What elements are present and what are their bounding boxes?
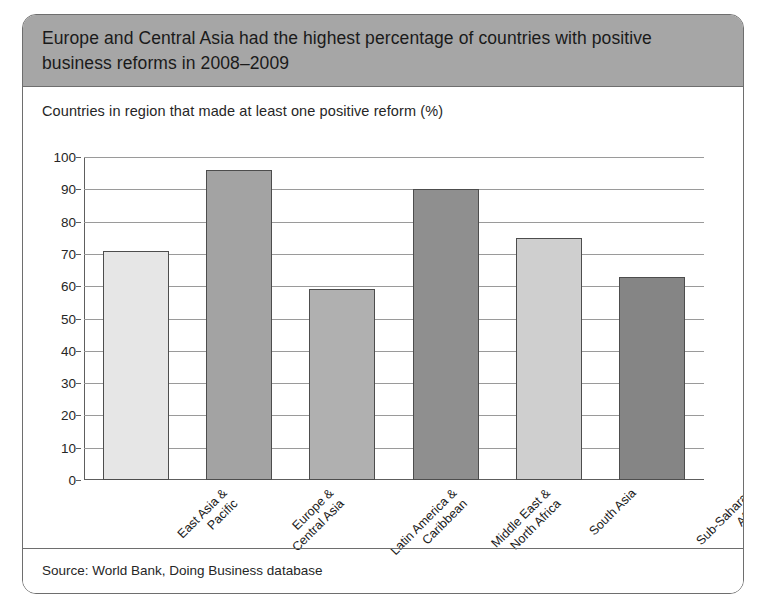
x-label-line: South Asia <box>587 486 640 539</box>
x-label-2: Europe &Central Asia <box>279 486 348 555</box>
figure-card: Europe and Central Asia had the highest … <box>22 14 744 594</box>
gridline-20 <box>84 415 704 416</box>
bar-chart-plot-area: 0102030405060708090100 <box>84 157 704 480</box>
gridline-50 <box>84 319 704 320</box>
bar-3 <box>309 289 375 480</box>
x-label-5: South Asia <box>587 486 640 539</box>
source-note: Source: World Bank, Doing Business datab… <box>42 563 322 578</box>
figure-header-band: Europe and Central Asia had the highest … <box>23 15 743 87</box>
gridline-10 <box>84 448 704 449</box>
y-tick-mark-50 <box>76 319 81 320</box>
gridline-30 <box>84 383 704 384</box>
y-tick-label-20: 20 <box>30 408 76 423</box>
y-tick-label-50: 50 <box>30 311 76 326</box>
y-tick-mark-40 <box>76 351 81 352</box>
y-tick-label-90: 90 <box>30 182 76 197</box>
y-tick-mark-60 <box>76 286 81 287</box>
bar-2 <box>206 170 272 480</box>
gridline-60 <box>84 286 704 287</box>
x-label-3: Latin America &Caribbean <box>388 486 471 569</box>
y-tick-label-70: 70 <box>30 246 76 261</box>
figure-container: Europe and Central Asia had the highest … <box>0 0 764 611</box>
gridline-70 <box>84 254 704 255</box>
y-tick-label-60: 60 <box>30 279 76 294</box>
bar-4 <box>413 189 479 480</box>
y-tick-label-80: 80 <box>30 214 76 229</box>
figure-title: Europe and Central Asia had the highest … <box>42 26 723 76</box>
y-tick-label-30: 30 <box>30 376 76 391</box>
bar-6 <box>619 277 685 480</box>
gridline-100 <box>84 157 704 158</box>
source-divider <box>23 548 743 549</box>
y-tick-mark-80 <box>76 222 81 223</box>
y-tick-mark-100 <box>76 157 81 158</box>
y-tick-mark-30 <box>76 383 81 384</box>
y-tick-label-100: 100 <box>30 150 76 165</box>
gridline-40 <box>84 351 704 352</box>
y-tick-label-10: 10 <box>30 440 76 455</box>
x-axis-line <box>84 479 704 480</box>
y-tick-label-0: 0 <box>30 473 76 488</box>
y-tick-mark-0 <box>76 480 81 481</box>
gridline-90 <box>84 189 704 190</box>
y-tick-mark-20 <box>76 415 81 416</box>
gridline-80 <box>84 222 704 223</box>
bar-5 <box>516 238 582 480</box>
bar-1 <box>103 251 169 480</box>
y-tick-mark-10 <box>76 448 81 449</box>
chart-subtitle: Countries in region that made at least o… <box>42 103 443 119</box>
x-label-4: Middle East &North Africa <box>488 486 564 562</box>
figure-body: Countries in region that made at least o… <box>23 87 743 593</box>
x-label-1: East Asia &Pacific <box>174 486 240 552</box>
y-tick-mark-70 <box>76 254 81 255</box>
y-tick-mark-90 <box>76 189 81 190</box>
y-tick-label-40: 40 <box>30 343 76 358</box>
